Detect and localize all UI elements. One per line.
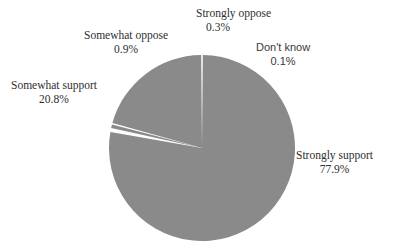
slice-label-dont-know: Don't know 0.1% [256,40,310,68]
slice-label-strongly-oppose-name: Strongly oppose [196,7,271,19]
slice-label-strongly-oppose-value: 0.3% [206,20,271,34]
slice-label-strongly-support-value: 77.9% [296,162,373,176]
slice-label-somewhat-oppose-value: 0.9% [84,42,168,56]
slice-label-somewhat-support-name: Somewhat support [11,79,97,91]
slice-label-strongly-support-name: Strongly support [296,149,373,161]
slice-label-somewhat-support: Somewhat support 20.8% [11,78,97,106]
pie-chart-figure: Strongly oppose 0.3% Somewhat oppose 0.9… [0,0,397,249]
slice-label-dont-know-name: Don't know [256,41,310,53]
slice-label-somewhat-oppose-name: Somewhat oppose [84,29,168,41]
slice-label-dont-know-value: 0.1% [256,54,310,68]
slice-label-strongly-support: Strongly support 77.9% [296,148,373,176]
slice-label-somewhat-oppose: Somewhat oppose 0.9% [84,28,168,56]
pie-chart-canvas [0,0,397,249]
slice-label-strongly-oppose: Strongly oppose 0.3% [196,6,271,34]
pie-slices-group [109,55,295,241]
slice-label-somewhat-support-value: 20.8% [11,92,97,106]
